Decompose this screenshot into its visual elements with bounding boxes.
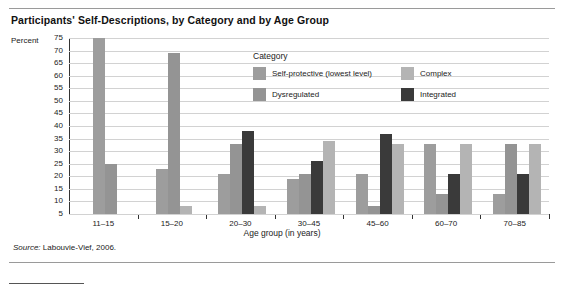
figure-panel: Participants' Self-Descriptions, by Cate…	[0, 0, 564, 294]
legend-label: Complex	[420, 69, 452, 78]
bar	[218, 174, 230, 214]
y-tick-label: 35	[39, 134, 63, 143]
bottom-divider	[9, 262, 555, 263]
footer-rule	[9, 283, 84, 284]
source-text: Labouvie-Vief, 2006.	[43, 243, 116, 252]
bar	[287, 179, 299, 214]
bar	[529, 144, 541, 214]
legend-swatch-icon	[253, 88, 266, 101]
bar	[493, 194, 505, 214]
y-tick-label: 45	[39, 108, 63, 117]
y-tick-label: 55	[39, 83, 63, 92]
bar	[156, 169, 168, 214]
bar	[323, 141, 335, 214]
x-tick-label: 20–30	[206, 219, 275, 228]
bar	[180, 206, 192, 214]
x-tick-label: 15–20	[138, 219, 207, 228]
bar	[242, 131, 254, 214]
y-axis-title: Percent	[11, 36, 39, 45]
bar	[505, 144, 517, 214]
y-tick-label: 40	[39, 121, 63, 130]
x-tick-label: 70–85	[480, 219, 549, 228]
y-tick-label: 30	[39, 146, 63, 155]
y-tick-label: 25	[39, 159, 63, 168]
gridline	[69, 214, 549, 215]
legend-swatch-icon	[401, 88, 414, 101]
y-tick-label: 20	[39, 171, 63, 180]
bar	[299, 174, 311, 214]
bar-series-layer	[69, 38, 549, 214]
bar	[311, 161, 323, 214]
legend-swatch-icon	[401, 67, 414, 80]
bar	[105, 164, 117, 214]
bar	[368, 206, 380, 214]
x-tick-label: 11–15	[69, 219, 138, 228]
bar	[230, 144, 242, 214]
y-tick-label: 5	[39, 209, 63, 218]
bar	[254, 206, 266, 214]
source-note: Source: Labouvie-Vief, 2006.	[13, 243, 116, 252]
legend-label: Integrated	[420, 90, 456, 99]
y-tick-label: 50	[39, 96, 63, 105]
y-tick-label: 15	[39, 184, 63, 193]
x-tick-label: 60–70	[412, 219, 481, 228]
page-title: Participants' Self-Descriptions, by Cate…	[11, 14, 329, 26]
bar	[448, 174, 460, 214]
bar	[380, 134, 392, 214]
x-axis-title: Age group (in years)	[0, 228, 564, 238]
x-tick-label: 45–60	[343, 219, 412, 228]
bar	[392, 144, 404, 214]
legend-title: Category	[253, 51, 288, 61]
y-tick-label: 70	[39, 46, 63, 55]
bar	[517, 174, 529, 214]
bar	[460, 144, 472, 214]
legend-swatch-icon	[253, 67, 266, 80]
bar	[93, 38, 105, 214]
source-prefix: Source:	[13, 243, 41, 252]
y-tick-label: 10	[39, 196, 63, 205]
legend-item: Complex	[401, 67, 452, 80]
y-tick-label: 60	[39, 71, 63, 80]
bar	[356, 174, 368, 214]
bar	[424, 144, 436, 214]
top-divider	[9, 8, 555, 9]
legend-item: Integrated	[401, 88, 456, 101]
plot-area: 75706560555045403530252015105 11–1515–20…	[69, 38, 549, 214]
y-tick-label: 65	[39, 58, 63, 67]
y-tick-label: 75	[39, 33, 63, 42]
x-tick-mark	[549, 215, 550, 219]
legend-item: Dysregulated	[253, 88, 319, 101]
bar	[436, 194, 448, 214]
bar	[168, 53, 180, 214]
legend-item: Self-protective (lowest level)	[253, 67, 372, 80]
legend-label: Self-protective (lowest level)	[272, 69, 372, 78]
x-tick-label: 30–45	[275, 219, 344, 228]
legend-label: Dysregulated	[272, 90, 319, 99]
